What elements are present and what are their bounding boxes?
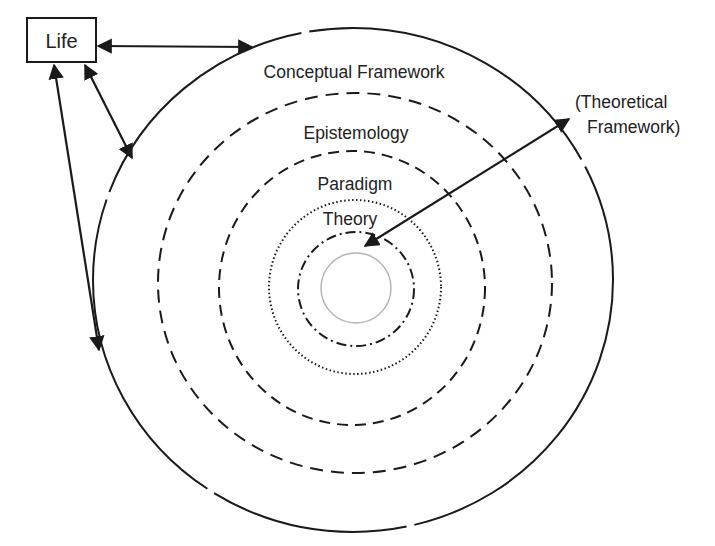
ring-core — [321, 253, 391, 323]
paradigm-label: Paradigm — [318, 174, 393, 194]
conceptual-framework-label: Conceptual Framework — [264, 62, 445, 82]
ring-inner-dash-dot — [298, 232, 414, 346]
theoretical-framework-label-line2: Framework) — [587, 117, 680, 137]
ring-epistemology — [158, 93, 552, 473]
epistemology-label: Epistemology — [303, 123, 408, 143]
life-label: Life — [45, 30, 77, 52]
arrow-life-to-conceptual-top — [98, 46, 252, 47]
arrow-life-to-conceptual-lower — [54, 65, 99, 350]
theoretical-framework-label-line1: (Theoretical — [575, 92, 667, 112]
arrow-life-to-conceptual-left — [85, 65, 132, 158]
ring-conceptual-framework — [93, 28, 613, 532]
theory-label: Theory — [323, 209, 378, 229]
diagram-canvas: Life Conceptual Framework Epistemology P… — [0, 0, 715, 546]
